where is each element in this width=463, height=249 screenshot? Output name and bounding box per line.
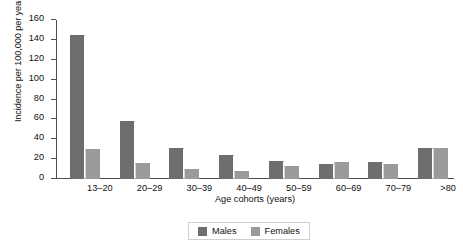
y-tick-label: 20 [34,152,44,162]
bar-males-4 [269,161,284,179]
y-axis-title: Incidence per 100,000 per year [13,0,23,140]
y-axis-line [56,20,57,179]
bar-males-2 [169,148,184,179]
legend-item-females: Females [251,226,300,236]
y-tick: 60 [51,118,56,119]
bar-females-1 [135,163,150,179]
bar-males-0 [70,35,85,179]
bar-females-3 [234,171,249,179]
bar-group: 40–49 [219,20,249,179]
bar-group: 50–59 [269,20,299,179]
bar-females-7 [433,148,448,179]
bar-group: 70–79 [368,20,398,179]
legend-label-males: Males [212,226,237,236]
bar-males-5 [319,164,334,179]
y-tick: 40 [51,138,56,139]
bar-males-6 [368,162,383,179]
x-axis-title: Age cohorts (years) [56,194,454,204]
bar-group: 60–69 [319,20,349,179]
bar-group: 13–20 [70,20,100,179]
y-tick-label: 40 [34,132,44,142]
y-tick-label: 80 [34,93,44,103]
bar-group: >80 [418,20,448,179]
bar-females-0 [85,149,100,179]
chart-legend: Males Females [188,222,310,240]
y-tick: 100 [51,79,56,80]
y-tick: 20 [51,158,56,159]
bar-chart-figure: Incidence per 100,000 per year 020406080… [0,0,463,249]
y-tick-label: 120 [29,53,44,63]
y-tick: 0 [51,178,56,179]
bar-males-1 [120,121,135,179]
bar-group: 30–39 [169,20,199,179]
bar-females-6 [383,164,398,179]
y-tick-label: 160 [29,13,44,23]
bar-males-7 [418,148,433,179]
y-tick-label: 0 [39,172,44,182]
y-tick: 140 [51,39,56,40]
plot-area: 020406080100120140160 13–2020–2930–3940–… [56,20,454,179]
legend-item-males: Males [198,226,237,236]
legend-swatch-females-icon [251,227,260,236]
y-tick-label: 60 [34,112,44,122]
y-tick-label: 100 [29,73,44,83]
y-tick: 80 [51,99,56,100]
y-tick-label: 140 [29,33,44,43]
y-tick: 160 [51,19,56,20]
x-tick-label: >80 [413,183,463,193]
bar-females-4 [284,166,299,179]
bar-group: 20–29 [120,20,150,179]
legend-label-females: Females [265,226,300,236]
bar-females-2 [184,169,199,179]
bar-males-3 [219,155,234,179]
legend-swatch-males-icon [198,227,207,236]
y-tick: 120 [51,59,56,60]
bar-females-5 [334,162,349,179]
